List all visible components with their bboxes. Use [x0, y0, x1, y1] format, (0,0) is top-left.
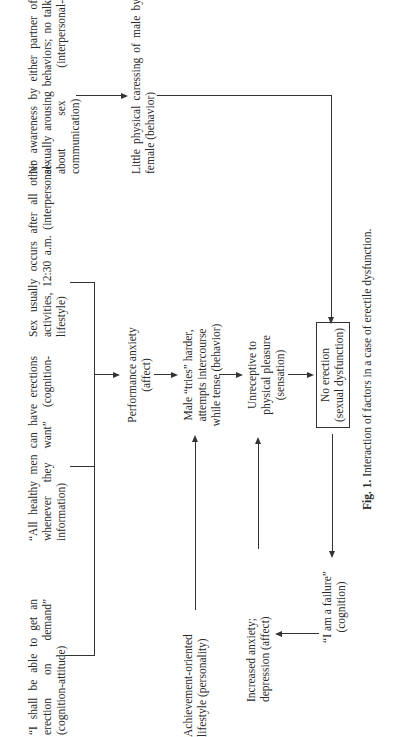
node-performance-anxiety: Performance anxiety (affect) — [125, 313, 153, 437]
arrow-head — [236, 372, 243, 378]
bracket-tick-information — [70, 466, 95, 467]
arrow-head — [171, 372, 178, 378]
node-caressing: Little physical caressing of male by fem… — [129, 0, 157, 174]
node-increased-anxiety: Increased anxiety; depression (affect) — [244, 572, 272, 702]
arrow-head — [307, 372, 314, 378]
bracket-spine — [94, 283, 95, 656]
arrow-achievement-to-tries — [195, 440, 196, 610]
bracket-tick-lifestyle — [70, 282, 95, 283]
arrow-head — [328, 317, 334, 324]
arrow-head — [113, 372, 120, 378]
node-attitude: “I shall be able to get an erection on d… — [26, 599, 68, 735]
bracket-tick-attitude — [65, 655, 95, 656]
arrow-failure-to-increased-anxiety — [281, 633, 319, 634]
arrow-tries-to-unreceptive — [219, 374, 237, 375]
node-communication: No awareness by either partner of sexual… — [26, 0, 82, 174]
figure-caption-text: Interaction of factors in a case of erec… — [361, 229, 373, 477]
arrow-communication-to-caressing — [76, 95, 122, 96]
node-tries-harder: Male “tries” harder, attempts intercours… — [181, 313, 223, 437]
arrow-head — [192, 435, 198, 442]
node-achievement: Achievement-oriented lifestyle (personal… — [181, 617, 209, 737]
node-information: “All healthy men can have erections when… — [26, 356, 68, 541]
arrow-bracket-to-anxiety — [94, 374, 114, 375]
figure-caption: Fig. 1. Interaction of factors in a case… — [360, 210, 374, 510]
figure-diagram: “I shall be able to get an erection on d… — [0, 0, 400, 737]
arrow-unreceptive-to-no-erection — [288, 374, 308, 375]
arrow-anxiety-to-tries — [154, 374, 172, 375]
figure-label: Fig. 1. — [361, 480, 373, 510]
node-failure: “I am a failure” (cognition) — [320, 557, 348, 657]
node-no-erection: No erection (sexual dysfunction) — [316, 322, 350, 428]
line-caressing-down — [157, 95, 332, 96]
line-no-erection-to-failure — [332, 434, 333, 552]
node-lifestyle: Sex usually occurs after all other activ… — [26, 162, 68, 337]
arrow-head — [121, 93, 128, 99]
node-unreceptive: Unreceptive to physical pleasure (sensat… — [245, 313, 287, 437]
arrow-increased-anxiety-to-unreceptive — [258, 442, 259, 549]
arrow-head — [275, 631, 282, 637]
arrow-head — [255, 437, 261, 444]
line-caressing-to-no-erection — [331, 95, 332, 318]
